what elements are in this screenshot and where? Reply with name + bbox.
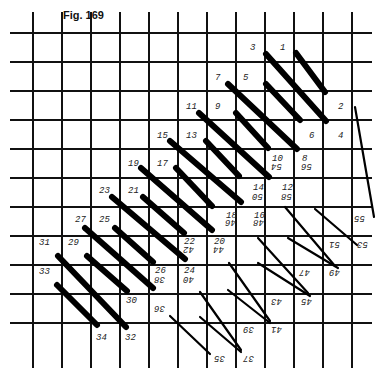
stitch-number-inverted: 41 bbox=[271, 324, 282, 334]
thick-stitch bbox=[266, 54, 326, 121]
stitch-number-inverted: 37 bbox=[243, 353, 254, 363]
stitch-grid-canvas: 3175119215136419171082321141227251816312… bbox=[0, 0, 382, 380]
stitch-number: 9 bbox=[215, 102, 221, 112]
stitch-number: 21 bbox=[128, 186, 139, 196]
stitch-number: 4 bbox=[338, 131, 343, 141]
stitch-number: 1 bbox=[280, 43, 285, 53]
stitch-number: 2 bbox=[338, 102, 344, 112]
stitch-number-inverted: 45 bbox=[301, 296, 312, 306]
stitch-number: 15 bbox=[157, 131, 168, 141]
stitch-number-inverted: 50 bbox=[252, 191, 263, 201]
stitch-number: 11 bbox=[186, 102, 197, 112]
stitch-number: 30 bbox=[126, 296, 137, 306]
stitch-number: 27 bbox=[75, 215, 86, 225]
stitch-number-inverted: 54 bbox=[271, 161, 282, 171]
stitch-number-inverted: 38 bbox=[154, 274, 165, 284]
canvas-grid bbox=[10, 12, 372, 368]
stitch-number: 33 bbox=[39, 267, 50, 277]
stitch-number-inverted: 56 bbox=[301, 161, 312, 171]
stitch-number: 29 bbox=[68, 238, 79, 248]
stitch-number: 34 bbox=[96, 333, 107, 343]
thin-stitch bbox=[355, 107, 374, 217]
stitch-number-inverted: 58 bbox=[281, 191, 292, 201]
stitch-number: 19 bbox=[128, 159, 139, 169]
stitch-number: 7 bbox=[215, 73, 221, 83]
stitch-number-inverted: 51 bbox=[329, 239, 340, 249]
stitch-number-inverted: 44 bbox=[213, 244, 224, 254]
stitch-number-inverted: 40 bbox=[183, 274, 194, 284]
stitch-number-inverted: 48 bbox=[253, 217, 264, 227]
stitch-number-inverted: 47 bbox=[299, 267, 310, 277]
stitch-number-inverted: 43 bbox=[271, 296, 282, 306]
back-stitches bbox=[170, 107, 374, 354]
stitch-number: 25 bbox=[99, 215, 110, 225]
stitch-number-inverted: 49 bbox=[329, 267, 340, 277]
stitch-number-inverted: 36 bbox=[154, 303, 165, 313]
stitch-number-inverted: 53 bbox=[357, 239, 368, 249]
stitch-diagram: Fig. 169 3175119215136419171082321141227… bbox=[0, 0, 382, 380]
stitch-number: 6 bbox=[309, 131, 315, 141]
stitch-number: 3 bbox=[250, 43, 256, 53]
stitch-number-inverted: 39 bbox=[243, 324, 254, 334]
stitch-number: 17 bbox=[157, 159, 168, 169]
stitch-number-inverted: 55 bbox=[354, 213, 365, 223]
stitch-number: 31 bbox=[39, 238, 50, 248]
stitch-number-inverted: 46 bbox=[225, 217, 236, 227]
stitch-number: 5 bbox=[243, 73, 249, 83]
stitch-number-inverted: 42 bbox=[183, 244, 194, 254]
stitch-number: 13 bbox=[186, 131, 197, 141]
stitch-number-inverted: 35 bbox=[214, 353, 225, 363]
stitch-number: 32 bbox=[125, 333, 136, 343]
stitch-number: 23 bbox=[99, 186, 110, 196]
thick-stitch bbox=[296, 53, 325, 92]
figure-title: Fig. 169 bbox=[63, 9, 104, 21]
